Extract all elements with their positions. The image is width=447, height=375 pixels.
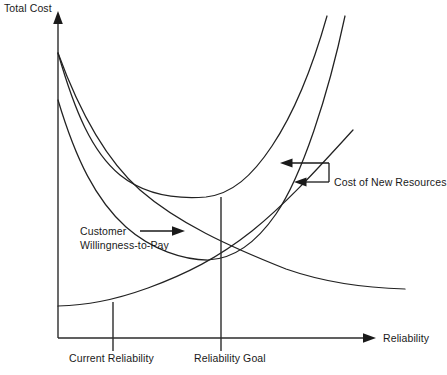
annotation-customer-wtp-line2: Willingness-to-Pay (80, 238, 169, 252)
callout-arrowhead-lower (294, 177, 307, 186)
annotation-cost-of-new-resources: Cost of New Resources (334, 176, 447, 189)
callout-arrowhead-upper (280, 158, 293, 167)
reference-lines-group (113, 197, 221, 351)
curve-total-cost-upper (58, 16, 327, 198)
tick-label-current-reliability: Current Reliability (69, 352, 154, 365)
axes-group (53, 11, 376, 343)
curves-group (58, 16, 405, 306)
x-axis-arrowhead (363, 333, 376, 343)
callout-cost-of-new-resources (280, 158, 329, 186)
y-axis-arrowhead (53, 11, 63, 24)
annotation-customer-wtp-line1: Customer (80, 224, 169, 238)
callout-arrowhead-customer-wtp (172, 226, 185, 236)
tick-label-reliability-goal: Reliability Goal (194, 352, 266, 365)
x-axis-label: Reliability (383, 332, 429, 345)
curve-customer-willingness-to-pay (58, 53, 405, 289)
annotation-customer-willingness-to-pay: Customer Willingness-to-Pay (80, 224, 169, 252)
y-axis-label: Total Cost (4, 2, 52, 15)
